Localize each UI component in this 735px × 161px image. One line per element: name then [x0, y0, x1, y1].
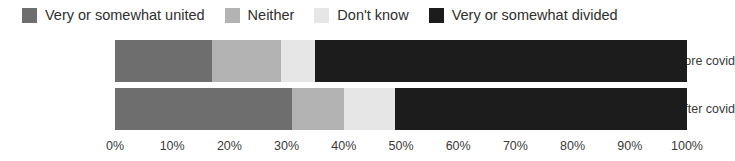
- bar-row-before-covid: [115, 40, 687, 82]
- legend-item-label: Don't know: [337, 8, 408, 23]
- x-axis-tick-label: 100%: [671, 140, 703, 153]
- legend-item[interactable]: Very or somewhat divided: [429, 8, 618, 23]
- bar-segment[interactable]: [344, 88, 395, 130]
- legend-item-label: Neither: [248, 8, 295, 23]
- plot-area: Before covid After covid 0%10%20%30%40%5…: [0, 30, 735, 161]
- x-axis-tick-label: 0%: [106, 140, 124, 153]
- x-axis-tick-label: 90%: [617, 140, 642, 153]
- legend-item[interactable]: Don't know: [314, 8, 408, 23]
- bar-segment[interactable]: [281, 40, 315, 82]
- bar-segment[interactable]: [292, 88, 343, 130]
- legend-swatch-icon: [22, 8, 37, 23]
- x-axis: 0%10%20%30%40%50%60%70%80%90%100%: [115, 134, 687, 160]
- stacked-bar-chart: Very or somewhat unitedNeitherDon't know…: [0, 0, 735, 161]
- bar-segment[interactable]: [395, 88, 687, 130]
- x-axis-tick-label: 60%: [446, 140, 471, 153]
- legend-item-label: Very or somewhat divided: [452, 8, 618, 23]
- chart-legend: Very or somewhat unitedNeitherDon't know…: [0, 0, 735, 30]
- x-axis-tick-label: 80%: [560, 140, 585, 153]
- x-axis-tick-label: 40%: [331, 140, 356, 153]
- legend-item[interactable]: Neither: [225, 8, 295, 23]
- x-axis-tick-label: 70%: [503, 140, 528, 153]
- x-axis-tick-label: 50%: [388, 140, 413, 153]
- bar-segment[interactable]: [212, 40, 281, 82]
- legend-swatch-icon: [225, 8, 240, 23]
- bar-segment[interactable]: [115, 88, 292, 130]
- legend-swatch-icon: [314, 8, 329, 23]
- x-axis-tick-label: 10%: [160, 140, 185, 153]
- x-axis-tick-label: 20%: [217, 140, 242, 153]
- bar-row-after-covid: [115, 88, 687, 130]
- legend-item-label: Very or somewhat united: [45, 8, 205, 23]
- legend-swatch-icon: [429, 8, 444, 23]
- bar-segment[interactable]: [315, 40, 687, 82]
- legend-item[interactable]: Very or somewhat united: [22, 8, 205, 23]
- x-axis-tick-label: 30%: [274, 140, 299, 153]
- bar-segment[interactable]: [115, 40, 212, 82]
